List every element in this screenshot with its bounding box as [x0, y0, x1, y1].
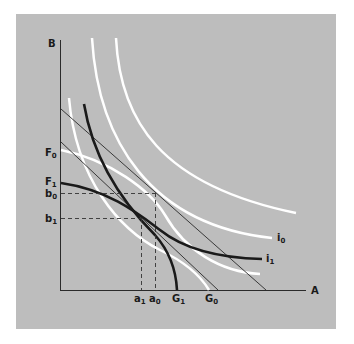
x-axis-label: A	[311, 285, 319, 296]
label-a1: a1	[134, 293, 146, 306]
label-b0: b0	[45, 188, 57, 201]
label-i0: i0	[277, 232, 285, 245]
label-a0: a0	[149, 293, 161, 306]
y-axis-label: B	[48, 38, 56, 49]
indifference-curve-outer	[116, 38, 296, 213]
diagram-canvas: B A F0 F1 b0 b1 a1 a0 G1 G0 i0 i1	[0, 0, 354, 344]
label-b1: b1	[45, 213, 57, 226]
label-F0: F0	[45, 147, 57, 160]
label-G0: G0	[205, 293, 218, 306]
label-i1: i1	[266, 253, 274, 266]
label-G1: G1	[172, 293, 185, 306]
